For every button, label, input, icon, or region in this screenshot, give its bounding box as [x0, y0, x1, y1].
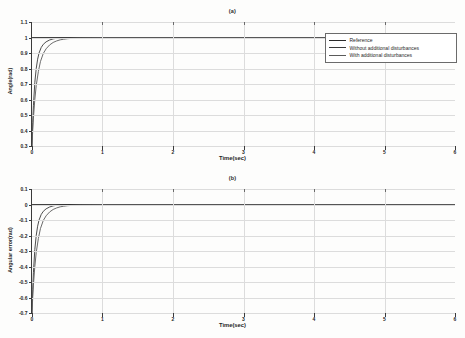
y-axis-tick — [29, 38, 33, 39]
grid-line-vertical — [385, 189, 386, 313]
grid-line-vertical — [314, 189, 315, 313]
y-axis-tick — [29, 205, 33, 206]
x-axis-tick-top — [173, 189, 174, 192]
x-axis-title-b: Time(sec) — [0, 322, 465, 328]
y-axis-tick-label: -0.6 — [19, 295, 28, 301]
figure-page: (a) 1.110.90.80.70.60.50.40.30123456 Ang… — [0, 0, 465, 338]
legend-label: Reference — [350, 37, 373, 43]
x-axis-tick-top — [244, 22, 245, 25]
y-axis-tick — [29, 100, 33, 101]
legend-item: With additional disturbances — [329, 52, 452, 60]
grid-line-vertical — [102, 22, 103, 146]
x-axis-tick-top — [314, 189, 315, 192]
x-axis-title-a: Time(sec) — [0, 155, 465, 161]
legend-item: Reference — [329, 37, 452, 45]
y-axis-title-b: Angular error(rad) — [7, 220, 13, 280]
subplot-b-title: (b) — [0, 175, 465, 181]
plot-area-b: 0.10-0.1-0.2-0.3-0.4-0.5-0.6-0.70123456 — [31, 189, 455, 314]
y-axis-tick — [29, 251, 33, 252]
y-axis-tick-label: 0.6 — [21, 97, 28, 103]
y-axis-tick-label: -0.5 — [19, 279, 28, 285]
legend-label: With additional disturbances — [350, 52, 413, 58]
subplot-a: (a) 1.110.90.80.70.60.50.40.30123456 Ang… — [0, 0, 465, 170]
y-axis-tick — [29, 298, 33, 299]
grid-line-vertical — [244, 22, 245, 146]
y-axis-tick-label: -0.4 — [19, 264, 28, 270]
y-axis-tick — [29, 236, 33, 237]
x-axis-tick-top — [314, 22, 315, 25]
y-axis-tick-label: 0.7 — [21, 81, 28, 87]
y-axis-tick — [29, 115, 33, 116]
y-axis-tick — [29, 84, 33, 85]
y-axis-tick-label: 0.8 — [21, 66, 28, 72]
x-axis-tick-top — [173, 22, 174, 25]
y-axis-tick-label: 0.9 — [21, 50, 28, 56]
y-axis-tick-label: 0.3 — [21, 143, 28, 149]
y-axis-title-a: Angle(rad) — [7, 57, 13, 105]
y-axis-tick-label: -0.1 — [19, 217, 28, 223]
y-axis-tick-label: 1.1 — [21, 19, 28, 25]
x-axis-tick-top — [385, 22, 386, 25]
legend-a: ReferenceWithout additional disturbances… — [325, 33, 457, 63]
x-axis-tick-top — [385, 189, 386, 192]
y-axis-tick — [29, 220, 33, 221]
legend-line-swatch — [329, 40, 346, 41]
y-axis-tick — [29, 267, 33, 268]
y-axis-tick-label: -0.3 — [19, 248, 28, 254]
legend-line-swatch — [329, 55, 346, 56]
y-axis-tick — [29, 69, 33, 70]
grid-line-vertical — [102, 189, 103, 313]
y-axis-tick-label: 0.5 — [21, 112, 28, 118]
y-axis-tick-label: 1 — [25, 35, 28, 41]
x-axis-tick-top — [102, 189, 103, 192]
subplot-b: (b) 0.10-0.1-0.2-0.3-0.4-0.5-0.6-0.70123… — [0, 169, 465, 338]
y-axis-tick — [29, 189, 33, 190]
y-axis-tick — [29, 53, 33, 54]
y-axis-tick-label: -0.2 — [19, 233, 28, 239]
y-axis-tick — [29, 131, 33, 132]
x-axis-tick-top — [244, 189, 245, 192]
grid-line-vertical — [173, 22, 174, 146]
y-axis-tick-label: 0.1 — [21, 186, 28, 192]
grid-line-vertical — [244, 189, 245, 313]
legend-label: Without additional disturbances — [350, 45, 420, 51]
subplot-a-title: (a) — [0, 8, 465, 14]
grid-line-vertical — [173, 189, 174, 313]
legend-item: Without additional disturbances — [329, 44, 452, 52]
y-axis-tick — [29, 282, 33, 283]
y-axis-tick — [29, 22, 33, 23]
grid-line-vertical — [314, 22, 315, 146]
y-axis-tick-label: 0.4 — [21, 128, 28, 134]
x-axis-tick-top — [102, 22, 103, 25]
legend-line-swatch — [329, 47, 346, 48]
y-axis-tick-label: 0 — [25, 202, 28, 208]
y-axis-tick-label: -0.7 — [19, 310, 28, 316]
